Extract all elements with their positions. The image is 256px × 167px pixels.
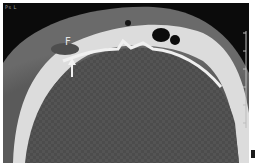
side-marker: [251, 150, 255, 158]
ct-scan-image: Ps L F: [3, 3, 249, 163]
frontal-sinus-label: F: [65, 36, 71, 47]
orientation-label: Ps L: [5, 4, 17, 10]
ct-scan-graphic: [3, 3, 249, 163]
